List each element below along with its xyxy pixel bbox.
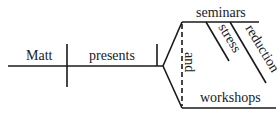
fork-bottom-branch — [163, 66, 182, 108]
object-word-seminars: seminars — [196, 5, 246, 20]
sentence-diagram: Matt presents seminars workshops and str… — [0, 0, 277, 114]
conjunction-word: and — [182, 52, 197, 72]
verb-word: presents — [89, 48, 135, 63]
object-word-workshops: workshops — [200, 90, 261, 105]
fork-top-branch — [163, 22, 182, 66]
modifier-word-reduction: reduction — [242, 22, 277, 75]
subject-word: Matt — [26, 48, 53, 63]
